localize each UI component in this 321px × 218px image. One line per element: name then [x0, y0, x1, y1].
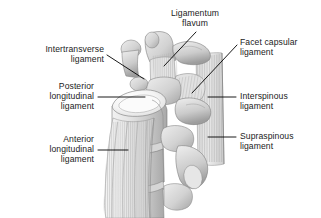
label-ligamentum-flavum: Ligamentum flavum [152, 8, 238, 28]
label-intertransverse-ligament: Intertransverse ligament [8, 44, 104, 64]
spinal-ligaments-figure: Ligamentum flavum Intertransverse ligame… [0, 0, 321, 218]
label-interspinous-ligament: Interspinous ligament [240, 91, 318, 111]
label-anterior-longitudinal-ligament: Anterior longitudinal ligament [8, 134, 94, 165]
label-posterior-longitudinal-ligament: Posterior longitudinal ligament [8, 81, 94, 112]
label-facet-capsular-ligament: Facet capsular ligament [240, 37, 320, 57]
label-supraspinous-ligament: Supraspinous ligament [240, 131, 320, 151]
